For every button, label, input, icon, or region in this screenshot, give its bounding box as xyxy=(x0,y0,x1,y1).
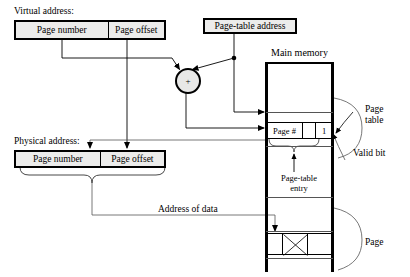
selected-frame-x-icon xyxy=(283,234,308,256)
pte-to-physical-page-number-connector xyxy=(90,136,266,148)
main-memory-rule-4 xyxy=(266,231,333,232)
address-of-data-label: Address of data xyxy=(158,205,218,215)
main-memory-title: Main memory xyxy=(271,47,328,58)
valid-bit-leader xyxy=(333,134,345,160)
page-bracket xyxy=(334,208,362,270)
page-table-label: Page table xyxy=(365,104,409,125)
pta-to-adder-connector xyxy=(193,33,237,70)
physical-page-offset-field[interactable]: Page offset xyxy=(100,152,164,166)
page-table-entry-label: Page-table entry xyxy=(266,174,332,193)
physical-address-brace xyxy=(20,167,165,183)
main-memory-rule-5 xyxy=(266,258,333,259)
vpn-to-adder-connector xyxy=(62,40,180,70)
main-memory-rule-1 xyxy=(266,112,333,113)
adder-output-connector xyxy=(186,90,264,128)
adder-plus-icon: + xyxy=(185,77,190,86)
virtual-page-offset-field[interactable]: Page offset xyxy=(108,22,164,38)
page-frame-cell-left xyxy=(267,234,282,254)
virtual-address-caption: Virtual address: xyxy=(14,6,74,16)
page-table-entry-row[interactable]: Page # 1 xyxy=(266,122,333,139)
virtual-page-number-field[interactable]: Page number xyxy=(16,22,108,38)
pta-to-memory-connector xyxy=(234,58,264,112)
page-table-address-box[interactable]: Page-table address xyxy=(203,18,297,34)
pte-valid-bit-cell[interactable]: 1 xyxy=(315,123,332,138)
pte-spacer-cell xyxy=(302,123,316,138)
main-memory-rule-3 xyxy=(266,197,333,198)
pte-page-number-cell[interactable]: Page # xyxy=(267,123,302,138)
page-label: Page xyxy=(365,237,383,248)
page-frame-row[interactable] xyxy=(266,233,333,255)
main-memory-rule-2 xyxy=(266,146,333,147)
physical-address-caption: Physical address: xyxy=(14,136,80,146)
valid-bit-label: Valid bit xyxy=(353,148,385,159)
adder-node: + xyxy=(175,68,201,94)
virtual-address-box[interactable]: Page number Page offset xyxy=(14,20,166,40)
page-frame-cell-right xyxy=(307,234,332,254)
physical-page-number-field[interactable]: Page number xyxy=(16,152,100,166)
page-table-translation-diagram: Virtual address: Page number Page offset… xyxy=(0,0,410,277)
physical-address-box[interactable]: Page number Page offset xyxy=(14,150,166,168)
page-frame-cell-selected[interactable] xyxy=(282,234,307,254)
